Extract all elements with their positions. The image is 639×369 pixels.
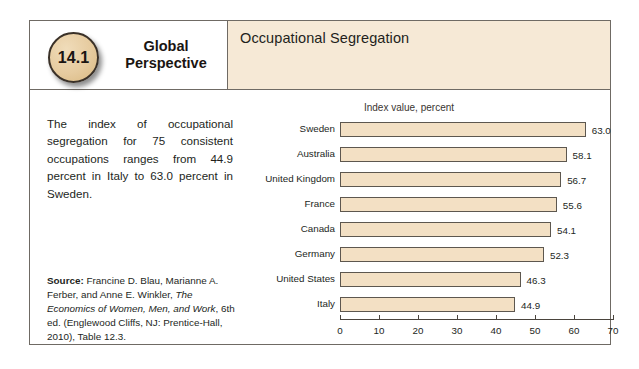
- axis-tick-label: 0: [337, 325, 342, 336]
- bar-track: 63.0: [340, 122, 612, 137]
- axis-tick: [457, 315, 458, 320]
- page-title: Occupational Segregation: [240, 30, 409, 46]
- bar-track: 56.7: [340, 172, 612, 187]
- bar-category-label: Canada: [190, 223, 340, 234]
- figure-kicker-line-2: Perspective: [110, 55, 222, 72]
- bar-track: 54.1: [340, 222, 612, 237]
- header-left-panel: 14.1 Global Perspective: [30, 21, 228, 89]
- bar-row: France55.6: [244, 194, 612, 219]
- figure-body: The index of occupational segregation fo…: [30, 90, 610, 345]
- bar-value-label: 54.1: [557, 225, 576, 236]
- source-label: Source:: [47, 275, 84, 286]
- header-subject-panel: Occupational Segregation: [228, 21, 610, 89]
- axis-tick-label: 40: [491, 325, 502, 336]
- bar-category-label: United States: [190, 273, 340, 284]
- bar-row: Germany52.3: [244, 244, 612, 269]
- bar-category-label: Australia: [190, 148, 340, 159]
- figure-header: 14.1 Global Perspective Occupational Seg…: [30, 21, 610, 90]
- axis-tick-label: 30: [452, 325, 463, 336]
- source-citation: Source: Francine D. Blau, Marianne A. Fe…: [47, 274, 237, 344]
- figure-number-badge: 14.1: [48, 32, 99, 83]
- bar-category-label: France: [190, 198, 340, 209]
- figure-box: 14.1 Global Perspective Occupational Seg…: [29, 20, 611, 345]
- bar-value-label: 55.6: [563, 200, 582, 211]
- axis-tick: [535, 315, 536, 320]
- bar-fill: [340, 297, 515, 312]
- bar-category-label: Germany: [190, 248, 340, 259]
- axis-tick: [418, 315, 419, 320]
- bar-fill: [340, 197, 557, 212]
- bar-row: Canada54.1: [244, 219, 612, 244]
- bar-track: 55.6: [340, 197, 612, 212]
- bar-track: 46.3: [340, 272, 612, 287]
- bar-category-label: United Kingdom: [190, 173, 340, 184]
- bar-value-label: 52.3: [550, 250, 569, 261]
- chart-plot-area: Sweden63.0Australia58.1United Kingdom56.…: [244, 119, 612, 319]
- axis-tick-label: 50: [530, 325, 541, 336]
- figure-kicker-title: Global Perspective: [110, 38, 222, 72]
- figure-kicker-line-1: Global: [110, 38, 222, 55]
- bar-value-label: 58.1: [573, 150, 592, 161]
- bar-track: 44.9: [340, 297, 612, 312]
- chart-x-axis: 010203040506070: [340, 319, 613, 345]
- bar-fill: [340, 272, 521, 287]
- bar-category-label: Sweden: [190, 123, 340, 134]
- bar-row: United Kingdom56.7: [244, 169, 612, 194]
- axis-tick: [379, 315, 380, 320]
- axis-tick-label: 60: [569, 325, 580, 336]
- bar-value-label: 46.3: [527, 275, 546, 286]
- bar-fill: [340, 122, 586, 137]
- axis-tick: [340, 315, 341, 320]
- axis-tick: [574, 315, 575, 320]
- bar-value-label: 63.0: [592, 125, 611, 136]
- bar-category-label: Italy: [190, 298, 340, 309]
- bar-row: Australia58.1: [244, 144, 612, 169]
- bar-track: 52.3: [340, 247, 612, 262]
- figure-number-label: 14.1: [58, 49, 90, 67]
- bar-fill: [340, 147, 567, 162]
- bar-value-label: 44.9: [521, 300, 540, 311]
- axis-tick-label: 70: [608, 325, 619, 336]
- axis-tick-label: 10: [374, 325, 385, 336]
- bar-fill: [340, 247, 544, 262]
- bar-fill: [340, 172, 561, 187]
- bar-row: United States46.3: [244, 269, 612, 294]
- bar-chart: Index value, percent Sweden63.0Australia…: [244, 90, 612, 345]
- axis-tick: [496, 315, 497, 320]
- bar-value-label: 56.7: [567, 175, 586, 186]
- chart-title: Index value, percent: [244, 102, 574, 113]
- bar-row: Italy44.9: [244, 294, 612, 319]
- axis-tick: [613, 315, 614, 320]
- axis-tick-label: 20: [413, 325, 424, 336]
- bar-track: 58.1: [340, 147, 612, 162]
- bar-fill: [340, 222, 551, 237]
- bar-row: Sweden63.0: [244, 119, 612, 144]
- axis-line: [340, 319, 613, 320]
